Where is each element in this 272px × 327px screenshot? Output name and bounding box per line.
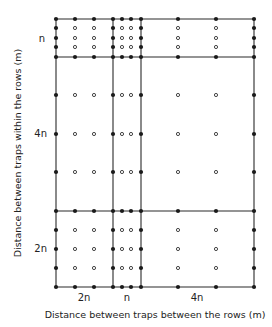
filled-trap-dot: [129, 17, 133, 21]
filled-trap-dot: [111, 266, 115, 270]
filled-trap-dot: [176, 55, 180, 59]
open-trap-dot: [73, 26, 76, 29]
x-block-label-n: n: [124, 292, 130, 303]
open-trap-dot: [129, 132, 132, 135]
open-trap-dot: [176, 266, 179, 269]
open-trap-dot: [120, 170, 123, 173]
filled-trap-dot: [92, 209, 96, 213]
filled-trap-dot: [54, 247, 58, 251]
open-trap-dot: [214, 132, 217, 135]
filled-trap-dot: [54, 55, 58, 59]
x-axis-label: Distance between traps between the rows …: [45, 309, 266, 320]
filled-trap-dot: [129, 209, 133, 213]
open-trap-dot: [120, 36, 123, 39]
open-trap-dot: [214, 266, 217, 269]
open-trap-dot: [214, 26, 217, 29]
filled-trap-dot: [111, 55, 115, 59]
filled-trap-dot: [176, 17, 180, 21]
filled-trap-dot: [73, 17, 77, 21]
y-block-label-4n: 4n: [34, 128, 47, 139]
filled-trap-dot: [54, 170, 58, 174]
open-trap-dot: [129, 266, 132, 269]
open-trap-dot: [92, 36, 95, 39]
open-trap-dot: [129, 36, 132, 39]
open-trap-dot: [73, 170, 76, 173]
filled-trap-dot: [139, 266, 143, 270]
filled-trap-dot: [129, 55, 133, 59]
filled-trap-dot: [54, 36, 58, 40]
filled-trap-dot: [252, 228, 256, 232]
trap-layout-diagram: Distance between traps between the rows …: [0, 0, 272, 327]
filled-trap-dot: [252, 266, 256, 270]
filled-trap-dot: [252, 26, 256, 30]
open-trap-dot: [129, 170, 132, 173]
filled-trap-dot: [111, 132, 115, 136]
open-trap-dot: [92, 228, 95, 231]
open-trap-dot: [92, 45, 95, 48]
filled-trap-dot: [252, 45, 256, 49]
filled-trap-dot: [73, 209, 77, 213]
open-trap-dot: [129, 93, 132, 96]
open-trap-dot: [92, 170, 95, 173]
filled-trap-dot: [54, 228, 58, 232]
filled-trap-dot: [214, 55, 218, 59]
filled-trap-dot: [139, 228, 143, 232]
diagram-canvas: Distance between traps between the rows …: [0, 0, 272, 327]
filled-trap-dot: [176, 285, 180, 289]
filled-trap-dot: [252, 285, 256, 289]
filled-trap-dot: [252, 209, 256, 213]
filled-trap-dot: [111, 26, 115, 30]
filled-trap-dot: [252, 247, 256, 251]
filled-trap-dot: [92, 285, 96, 289]
open-trap-dot: [73, 247, 76, 250]
filled-trap-dot: [54, 93, 58, 97]
filled-trap-dot: [111, 45, 115, 49]
open-trap-dot: [214, 45, 217, 48]
open-trap-dot: [214, 247, 217, 250]
filled-trap-dot: [111, 170, 115, 174]
filled-trap-dot: [92, 55, 96, 59]
filled-trap-dot: [111, 285, 115, 289]
open-trap-dot: [129, 247, 132, 250]
filled-trap-dot: [120, 17, 124, 21]
filled-trap-dot: [54, 266, 58, 270]
open-trap-dot: [120, 228, 123, 231]
open-trap-dot: [120, 247, 123, 250]
filled-trap-dot: [120, 209, 124, 213]
open-trap-dot: [120, 26, 123, 29]
filled-trap-dot: [129, 285, 133, 289]
open-trap-dot: [92, 266, 95, 269]
open-trap-dot: [129, 228, 132, 231]
open-trap-dot: [214, 170, 217, 173]
y-axis-label: Distance between traps within the rows (…: [12, 49, 23, 257]
filled-trap-dot: [139, 170, 143, 174]
filled-trap-dot: [139, 132, 143, 136]
filled-trap-dot: [252, 55, 256, 59]
filled-trap-dot: [139, 55, 143, 59]
filled-trap-dot: [139, 45, 143, 49]
filled-trap-dot: [176, 209, 180, 213]
open-trap-dot: [120, 93, 123, 96]
filled-trap-dot: [139, 285, 143, 289]
open-trap-dot: [176, 247, 179, 250]
filled-trap-dot: [111, 209, 115, 213]
grid-lines: [56, 19, 254, 287]
open-trap-dot: [73, 93, 76, 96]
open-trap-dot: [176, 132, 179, 135]
filled-trap-dot: [111, 36, 115, 40]
filled-trap-dot: [214, 17, 218, 21]
open-trap-dot: [176, 45, 179, 48]
open-trap-dot: [120, 266, 123, 269]
filled-trap-dot: [54, 17, 58, 21]
filled-trap-dot: [111, 228, 115, 232]
y-block-label-2n: 2n: [34, 243, 47, 254]
y-block-label-n: n: [39, 33, 45, 44]
open-trap-dot: [214, 93, 217, 96]
open-trap-dot: [176, 170, 179, 173]
open-trap-dot: [176, 228, 179, 231]
filled-trap-dot: [54, 209, 58, 213]
open-trap-dot: [176, 36, 179, 39]
open-trap-dot: [92, 93, 95, 96]
filled-trap-dot: [139, 36, 143, 40]
filled-trap-dot: [252, 170, 256, 174]
